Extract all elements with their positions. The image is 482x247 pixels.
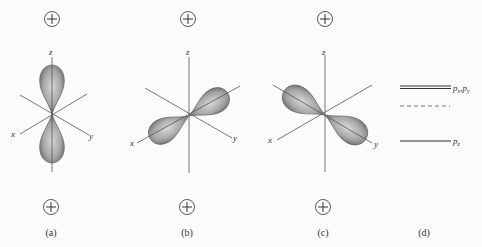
z-label-c: z <box>321 47 326 57</box>
level-pz: pz <box>400 136 461 147</box>
plus-sign-bottom-a <box>44 200 59 215</box>
lobe-lower-left-b <box>144 105 195 149</box>
z-label-b: z <box>185 47 190 57</box>
plus-sign-top-b <box>181 12 196 27</box>
x-label-c: x <box>267 135 272 145</box>
level-label-px-py: px,py <box>452 83 470 94</box>
plus-sign-top-c <box>318 12 333 27</box>
caption-d: (d) <box>418 227 430 239</box>
caption-b: (b) <box>181 227 193 239</box>
x-label-a: x <box>10 129 15 139</box>
panel-a: z x y (a) <box>10 12 93 240</box>
level-label-pz: pz <box>452 136 461 147</box>
caption-c: (c) <box>317 227 328 239</box>
x-label-b: x <box>129 138 134 148</box>
y-label-b: y <box>232 133 237 143</box>
plus-sign-bottom-c <box>316 200 331 215</box>
level-px-py: px,py <box>400 83 470 94</box>
x-axis-b <box>137 86 240 143</box>
orbital-diagram: z x y (a) z x y (b) z x <box>0 0 482 247</box>
lobe-lower-right-c <box>319 104 373 150</box>
y-label-c: y <box>373 139 378 149</box>
lobe-upper-right-b <box>183 83 234 127</box>
panel-b: z x y (b) <box>129 12 240 240</box>
caption-a: (a) <box>45 227 56 239</box>
plus-sign-bottom-b <box>180 200 195 215</box>
z-label-a: z <box>48 47 53 57</box>
panel-d: px,py pz (d) <box>400 83 470 239</box>
y-label-a: y <box>88 131 93 141</box>
plus-sign-top-a <box>45 12 60 27</box>
panel-c: z x y (c) <box>267 12 378 240</box>
